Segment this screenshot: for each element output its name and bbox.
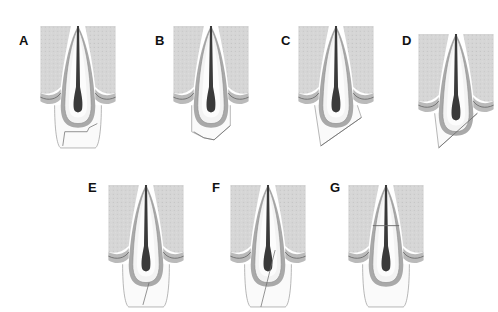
tooth-diagram-a	[40, 26, 116, 150]
panel-d	[418, 34, 498, 159]
tooth-diagram-d	[418, 34, 494, 158]
panel-g	[348, 185, 448, 310]
tooth-diagram-e	[108, 185, 184, 309]
panel-label-f: F	[212, 180, 220, 195]
panel-e	[108, 185, 208, 310]
panel-a	[40, 26, 140, 151]
tooth-diagram-g	[348, 185, 424, 309]
panel-c	[298, 26, 398, 151]
panel-label-c: C	[281, 33, 290, 48]
tooth-diagram-c	[298, 26, 374, 150]
panel-label-g: G	[330, 180, 340, 195]
panel-f	[230, 185, 330, 310]
panel-label-b: B	[155, 33, 164, 48]
panel-label-d: D	[402, 33, 411, 48]
panel-b	[173, 26, 273, 151]
panel-label-a: A	[19, 33, 28, 48]
tooth-diagram-b	[173, 26, 249, 150]
panel-label-e: E	[88, 180, 97, 195]
tooth-diagram-f	[230, 185, 306, 309]
